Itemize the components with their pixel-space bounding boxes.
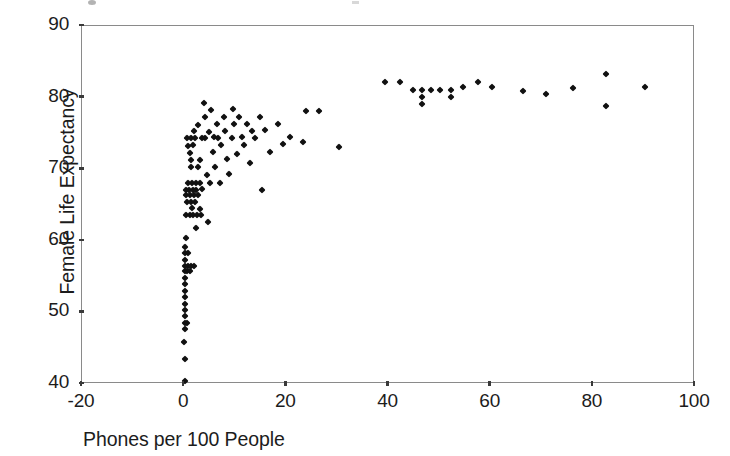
x-axis-tick-label: 0: [148, 390, 218, 412]
x-axis-tick-label: 40: [353, 390, 423, 412]
scatter-plot-figure: 405060708090-20020406080100 Female Life …: [0, 0, 730, 456]
scan-artifact-mark-secondary: [352, 1, 359, 4]
plot-area: [81, 25, 694, 383]
y-axis-tick-label: 40: [23, 371, 69, 393]
x-axis-title: Phones per 100 People: [83, 428, 285, 451]
y-axis-tick-label: 90: [23, 13, 69, 35]
x-axis-tick-label: 60: [455, 390, 525, 412]
y-axis-title: Female Life Expectancy: [56, 47, 79, 337]
x-axis-tick-label: 100: [659, 390, 729, 412]
x-axis-tick-label: 20: [250, 390, 320, 412]
scan-artifact-mark: [88, 0, 96, 5]
x-axis-tick-label: -20: [46, 390, 116, 412]
x-axis-tick-label: 80: [557, 390, 627, 412]
